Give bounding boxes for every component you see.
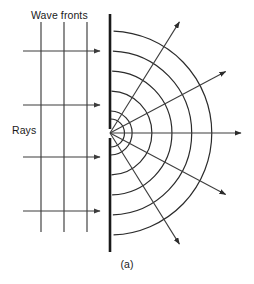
diffracted-ray-lower-steep [110,133,179,244]
diffracted-ray-lower-shallow [110,133,226,195]
wave-diffraction-diagram [0,0,254,284]
diffracted-ray-upper-steep [110,22,179,133]
figure-caption: (a) [0,258,254,270]
figure-container: Wave fronts Rays (a) [0,0,254,284]
wave-fronts-label: Wave fronts [31,9,88,21]
diffracted-ray-upper-shallow [110,72,226,134]
incident-wavefront-group [41,22,87,232]
rays-label: Rays [12,124,36,136]
